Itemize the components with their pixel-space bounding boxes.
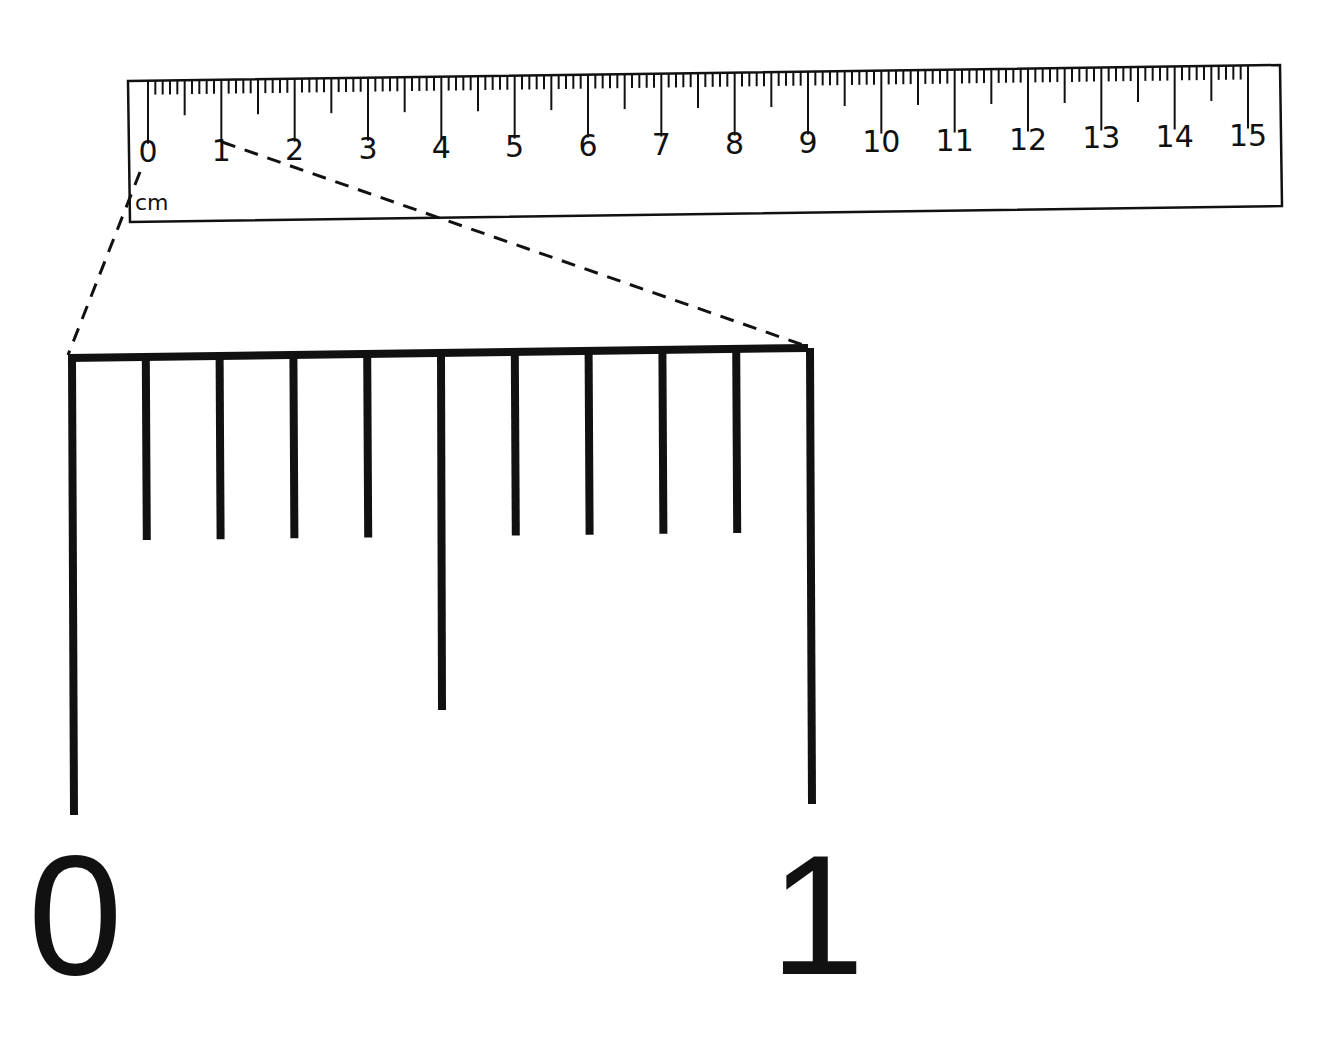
magnified-mm-tick [662,350,663,534]
cm-label: 1 [212,133,231,168]
cm-label: 14 [1156,119,1194,154]
magnified-mm-tick [146,357,147,540]
zoom-line-left [68,172,140,355]
magnified-start-label: 0 [28,830,123,1000]
cm-label: 2 [285,132,304,167]
magnified-mm-tick [589,351,590,535]
cm-label: 4 [432,130,451,165]
cm-label: 7 [652,127,671,162]
magnified-cm-tick [810,348,812,804]
magnified-mm-tick [515,352,516,536]
cm-label: 13 [1082,120,1120,155]
cm-label: 6 [578,128,597,163]
magnified-mm-tick [736,349,737,533]
cm-label: 12 [1009,122,1047,157]
cm-label: 9 [798,125,817,160]
cm-label: 11 [936,123,974,158]
magnified-mm-tick [220,356,221,539]
cm-label: 3 [358,131,377,166]
cm-label: 5 [505,129,524,164]
magnified-cm-tick [72,358,74,815]
magnified-mm-tick [367,354,368,537]
cm-label: 0 [138,134,157,169]
cm-label: 8 [725,126,744,161]
magnified-mm-tick [293,355,294,538]
magnified-end-label: 1 [770,830,865,1000]
unit-label: cm [135,190,169,215]
magnified-half-tick [441,353,442,710]
magnified-ticks [72,348,812,815]
cm-label: 10 [862,124,900,159]
cm-label: 15 [1229,118,1267,153]
